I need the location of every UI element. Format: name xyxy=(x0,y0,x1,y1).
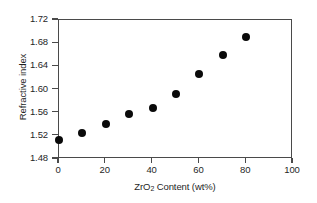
data-point xyxy=(195,70,203,78)
x-axis-tick xyxy=(104,158,105,163)
x-axis-tick-label: 60 xyxy=(178,165,218,175)
data-point xyxy=(242,33,250,41)
x-axis-tick xyxy=(291,158,292,163)
x-axis-tick-label: 40 xyxy=(132,165,172,175)
data-points-layer xyxy=(59,20,291,157)
data-point xyxy=(78,129,86,137)
x-axis-tick-label: 0 xyxy=(38,165,78,175)
x-axis-title: ZrO2 Content (wt%) xyxy=(58,181,292,194)
data-point xyxy=(219,51,227,59)
x-axis-tick xyxy=(245,158,246,163)
x-axis-tick-label: 80 xyxy=(225,165,265,175)
refractive-index-scatter-chart: 1.481.521.561.601.641.681.72 02040608010… xyxy=(0,0,317,203)
plot-area xyxy=(58,19,292,158)
data-point xyxy=(149,104,157,112)
x-axis-tick-label: 100 xyxy=(272,165,312,175)
data-point xyxy=(55,136,63,144)
y-axis-title: Refractive index xyxy=(18,17,28,157)
data-point xyxy=(102,120,110,128)
x-axis-tick xyxy=(57,158,58,163)
x-axis-tick xyxy=(198,158,199,163)
x-axis-tick xyxy=(151,158,152,163)
data-point xyxy=(125,110,133,118)
x-axis-tick-label: 20 xyxy=(85,165,125,175)
data-point xyxy=(172,90,180,98)
